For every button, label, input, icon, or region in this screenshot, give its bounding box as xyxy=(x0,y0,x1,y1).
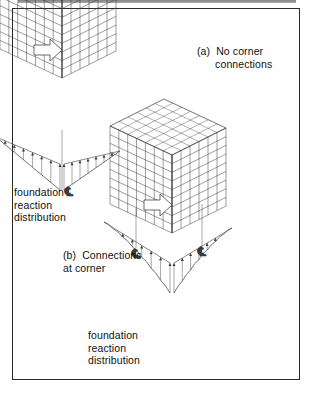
reaction-b-right-arrowhead xyxy=(173,263,176,266)
figure-root: ℄℄℄ (a) No corner connections (b) Connec… xyxy=(0,0,314,396)
caption-a: (a) No corner connections xyxy=(197,45,272,70)
building-b-beam xyxy=(110,161,172,190)
reaction-a-left-baseline xyxy=(0,137,60,164)
centerline-b2-symbol: ℄ xyxy=(197,245,206,259)
building-b-beam xyxy=(110,169,172,198)
building-a-beam xyxy=(0,6,62,35)
foundation-label-b: foundation reaction distribution xyxy=(88,329,140,367)
foundation-label-a: foundation reaction distribution xyxy=(14,186,66,224)
caption-b: (b) Connections at corner xyxy=(63,249,142,274)
panel-a-load-arrow xyxy=(34,39,62,61)
building-b-beam xyxy=(110,152,172,181)
reaction-b-left-arrowhead xyxy=(169,263,172,266)
building-a-beam xyxy=(0,14,62,43)
panel-b-load-arrow xyxy=(144,194,172,216)
reaction-a-left-arrowhead xyxy=(59,164,62,167)
reaction-a-right-arrowhead xyxy=(63,164,66,167)
building-a-beam xyxy=(0,0,62,17)
